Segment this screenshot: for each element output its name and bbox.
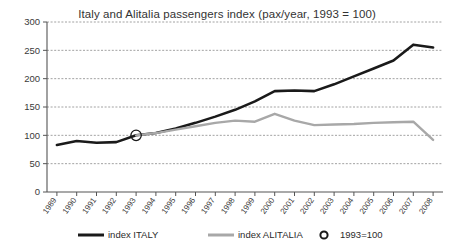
x-axis-label: 1991 — [81, 196, 99, 216]
y-axis-label: 100 — [24, 130, 40, 141]
x-axis-label: 1990 — [61, 196, 79, 216]
legend-label: index ALITALIA — [238, 229, 303, 240]
x-axis-label: 2005 — [358, 196, 376, 216]
x-axis-label: 2004 — [338, 196, 356, 216]
chart-title-text: Italy and Alitalia passengers index (pax… — [75, 8, 379, 20]
x-axis-label: 2003 — [318, 196, 336, 216]
x-axis-label: 1994 — [140, 196, 158, 216]
x-axis-ticks-group: 1989199019911992199319941995199619971998… — [41, 192, 435, 216]
chart-canvas: 050100150200250300 198919901991199219931… — [0, 0, 454, 252]
x-axis-label: 2002 — [298, 196, 316, 216]
legend-swatch-circle — [320, 231, 327, 238]
y-axis-label: 50 — [29, 158, 40, 169]
x-axis-label: 1995 — [160, 196, 178, 216]
x-axis-label: 1998 — [219, 196, 237, 216]
x-axis-label: 1997 — [199, 196, 217, 216]
chart-title: Italy and Alitalia passengers index (pax… — [0, 8, 454, 20]
chart-container: Italy and Alitalia passengers index (pax… — [0, 0, 454, 252]
y-axis-label: 250 — [24, 45, 40, 56]
series-line — [57, 45, 433, 145]
x-axis-label: 1996 — [180, 196, 198, 216]
x-axis-label: 1999 — [239, 196, 257, 216]
y-axis-label: 0 — [35, 186, 40, 197]
data-series-group — [57, 45, 433, 145]
x-axis-label: 2008 — [417, 196, 435, 216]
legend-label: 1993=100 — [340, 229, 383, 240]
legend-group: index ITALYindex ALITALIA1993=100 — [78, 229, 383, 240]
x-axis-label: 1989 — [41, 196, 59, 216]
x-axis-label: 2001 — [279, 196, 297, 216]
x-axis-label: 1992 — [100, 196, 118, 216]
x-axis-label: 2007 — [397, 196, 415, 216]
x-axis-label: 1993 — [120, 196, 138, 216]
y-axis-label: 200 — [24, 73, 40, 84]
x-axis-label: 2000 — [259, 196, 277, 216]
x-axis-label: 2006 — [378, 196, 396, 216]
legend-label: index ITALY — [108, 229, 159, 240]
y-axis-label: 150 — [24, 101, 40, 112]
y-axis-ticks-group: 050100150200250300 — [24, 16, 47, 197]
